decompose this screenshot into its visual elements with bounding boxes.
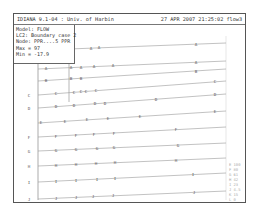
- contour-line-B: [38, 69, 226, 81]
- contour-line-H: [38, 158, 226, 166]
- contour-line-J: [38, 191, 226, 199]
- contour-label: F: [28, 135, 31, 140]
- contour-label: J: [75, 195, 78, 200]
- info-node: Node: PPR....5 PPR: [16, 38, 72, 44]
- contour-label: G: [28, 149, 31, 154]
- contour-line-G: [38, 143, 226, 151]
- contour-line-C: [38, 81, 226, 95]
- contour-line-F: [38, 127, 226, 137]
- contour-label: J: [193, 190, 196, 195]
- contour-line-I: [38, 173, 226, 182]
- contour-legend: E 100 F 80 G 61 H 42 I 23 J 4.5 K 15 L 0: [229, 162, 245, 202]
- contour-label: J: [112, 193, 115, 198]
- contour-label: J: [92, 194, 95, 199]
- contour-label: J: [28, 197, 31, 202]
- contour-label: H: [28, 164, 31, 169]
- plot-window: IDIANA 9.1-04 : Univ. of Harbin 27 APR 2…: [13, 13, 246, 203]
- contour-line-D: [38, 94, 226, 108]
- contour-label: I: [28, 180, 31, 185]
- info-box: Model: FLOW LC2: Boundary case 2 Node: P…: [14, 25, 75, 64]
- contour-label: J: [55, 196, 58, 201]
- contour-line-top: [69, 43, 226, 49]
- contour-label: D: [28, 106, 31, 111]
- contour-label: C: [28, 93, 31, 98]
- info-min: Min = -17.9: [16, 51, 72, 57]
- legend-entry: L 0: [229, 197, 245, 202]
